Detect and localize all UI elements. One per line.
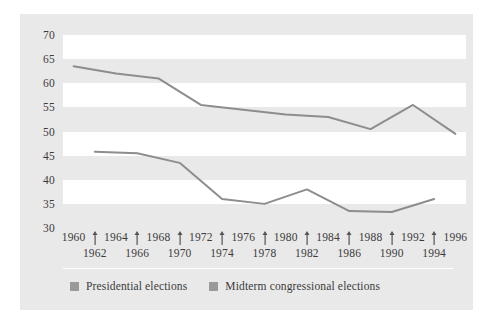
y-axis-tick-label: 55 [43, 101, 55, 113]
chart-container: 706560555045403530 196019641968197219761… [20, 14, 473, 310]
x-axis-tick-arrow-icon [261, 231, 268, 245]
x-axis-tick-label-midterm: 1962 [83, 247, 107, 259]
x-axis-tick-label-presidential: 1988 [359, 231, 383, 243]
x-axis-tick-label-presidential: 1984 [316, 231, 340, 243]
x-axis-tick-label-midterm: 1974 [210, 247, 234, 259]
x-axis-tick-arrow-icon [303, 231, 310, 245]
y-axis-tick-label: 45 [43, 150, 55, 162]
x-axis-tick-label-midterm: 1990 [380, 247, 404, 259]
x-axis-tick-label-midterm: 1982 [295, 247, 319, 259]
x-axis-tick-label-presidential: 1992 [401, 231, 425, 243]
legend-item-presidential: Presidential elections [70, 280, 187, 292]
x-axis-tick-arrow-icon [219, 231, 226, 245]
y-axis-tick-label: 65 [43, 53, 55, 65]
x-axis-tick-label-presidential: 1996 [443, 231, 467, 243]
x-axis-tick-label-midterm: 1994 [422, 247, 446, 259]
x-axis-tick-arrow-icon [134, 231, 141, 245]
x-axis-tick-arrow-icon [176, 231, 183, 245]
x-axis-tick-label-presidential: 1968 [147, 231, 171, 243]
chart-legend: Presidential elections Midterm congressi… [70, 280, 380, 292]
x-axis-tick-arrow-icon [346, 231, 353, 245]
x-axis-tick-label-presidential: 1976 [231, 231, 255, 243]
y-axis: 706560555045403530 [20, 35, 59, 228]
legend-divider [63, 268, 453, 269]
legend-swatch-midterm [209, 282, 218, 291]
chart-lines [63, 35, 466, 228]
y-axis-tick-label: 50 [43, 126, 55, 138]
x-axis-tick-arrow-icon [388, 231, 395, 245]
legend-item-midterm: Midterm congressional elections [209, 280, 380, 292]
x-axis-midterm-years: 196219661970197419781982198619901994 [63, 247, 466, 262]
x-axis-tick-label-presidential: 1980 [274, 231, 298, 243]
y-axis-tick-label: 35 [43, 198, 55, 210]
x-axis-tick-label-midterm: 1970 [168, 247, 192, 259]
legend-label-midterm: Midterm congressional elections [225, 280, 380, 292]
x-axis-tick-label-presidential: 1972 [189, 231, 213, 243]
x-axis-tick-label-presidential: 1964 [104, 231, 128, 243]
midterm-congressional-elections-line [95, 152, 434, 212]
plot-area [63, 35, 466, 228]
y-axis-tick-label: 40 [43, 174, 55, 186]
y-axis-tick-label: 60 [43, 77, 55, 89]
legend-swatch-presidential [70, 282, 79, 291]
y-axis-tick-label: 70 [43, 29, 55, 41]
y-axis-tick-label: 30 [43, 222, 55, 234]
x-axis-tick-arrow-icon [91, 231, 98, 245]
x-axis-tick-label-presidential: 1960 [62, 231, 86, 243]
x-axis-tick-label-midterm: 1978 [253, 247, 277, 259]
legend-label-presidential: Presidential elections [86, 280, 187, 292]
x-axis-tick-arrow-icon [431, 231, 438, 245]
x-axis-tick-label-midterm: 1986 [337, 247, 361, 259]
presidential-elections-line [74, 66, 456, 134]
x-axis-tick-label-midterm: 1966 [125, 247, 149, 259]
